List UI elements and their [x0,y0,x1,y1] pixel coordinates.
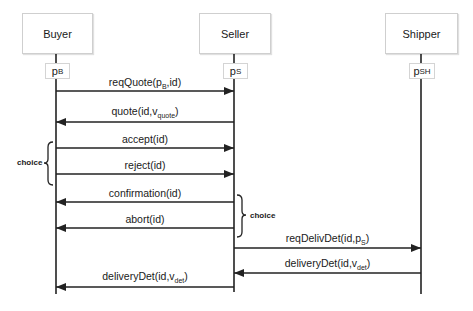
message-deliverydet-seller: deliveryDet(id,vdet) [56,270,234,284]
msg-sub: det [175,277,185,284]
msg-tail: ) [367,257,371,269]
msg-tail: ) [184,270,188,282]
message-reqquote: reqQuote(pB,id) [56,76,234,90]
msg-tail: ) [175,105,179,117]
message-accept: accept(id) [56,133,234,145]
message-abort: abort(id) [56,213,234,225]
left-choice-brace [44,142,53,185]
msg-text: reqDelivDet(id,p [286,232,361,244]
msg-text: reject(id) [125,159,166,171]
msg-text: reqQuote(p [109,76,162,88]
right-choice-brace [237,195,246,237]
port-buyer-sub: B [58,67,63,76]
msg-text: confirmation(id) [109,187,181,199]
msg-text: quote(id,v [111,105,157,117]
msg-text: deliveryDet(id,v [102,270,174,282]
message-deliverydet-shipper: deliveryDet(id,vdet) [234,257,421,271]
actor-seller: Seller [199,13,271,54]
actor-seller-label: Seller [221,28,249,40]
msg-tail: ) [366,232,370,244]
msg-tail: ,id) [167,76,182,88]
actor-buyer: Buyer [22,13,93,54]
actor-buyer-label: Buyer [43,28,72,40]
msg-sub: det [357,264,367,271]
message-reject: reject(id) [56,159,234,171]
actor-shipper: Shipper [385,13,458,54]
msg-sub: quote [158,112,176,119]
message-reqdelivdet: reqDelivDet(id,pS) [234,232,421,246]
port-shipper-sub: SH [420,67,431,76]
msg-text: accept(id) [122,133,168,145]
message-confirmation: confirmation(id) [56,187,234,199]
message-quote: quote(id,vquote) [56,105,234,119]
msg-text: deliveryDet(id,v [285,257,357,269]
port-seller-sub: S [236,67,241,76]
choice-label-right: choice [250,211,275,220]
msg-text: abort(id) [125,213,164,225]
actor-shipper-label: Shipper [403,28,441,40]
port-shipper: pSH [409,63,435,79]
sequence-diagram: Buyer Seller Shipper pB pS pSH reqQuote(… [0,0,473,311]
choice-label-left: choice [17,158,42,167]
